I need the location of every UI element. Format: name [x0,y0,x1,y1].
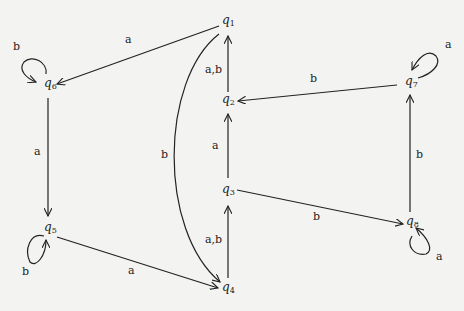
edge-q5-q4 [57,237,218,288]
edge-q7-loop [412,53,438,78]
automaton-diagram: a b a b a b a,b a a,b b a b b a q1 q2 q3… [0,0,464,311]
label-q5-q4: a [128,264,135,277]
state-q3: q3 [222,182,235,197]
label-q3-q2: a [212,139,219,152]
state-q2: q2 [222,92,235,107]
label-q7-q2: b [310,72,317,85]
edge-q6-loop [22,59,46,82]
label-q7-loop: a [445,38,452,51]
state-q8: q8 [406,214,419,229]
edge-q1-q6 [57,26,219,84]
label-q2-q1: a,b [205,63,222,76]
state-q5: q5 [44,220,57,235]
label-q5-loop: b [22,265,29,278]
state-q7: q7 [405,74,418,89]
state-q1: q1 [222,13,235,28]
label-q3-q8: b [313,210,320,223]
state-q6: q6 [44,76,57,91]
label-q1-q4: b [161,148,168,161]
edge-q5-loop [28,235,46,263]
label-q8-loop: a [436,250,443,263]
edge-q8-loop [410,228,430,254]
edge-q7-q2 [238,85,397,101]
label-q8-q7: b [416,148,423,161]
label-q6-q5: a [34,145,41,158]
label-q4-q3: a,b [205,233,222,246]
label-q6-loop: b [13,40,20,53]
diagram-svg: a b a b a b a,b a a,b b a b b a q1 q2 q3… [0,0,464,311]
state-q4: q4 [222,280,235,295]
label-q1-q6: a [125,33,132,46]
